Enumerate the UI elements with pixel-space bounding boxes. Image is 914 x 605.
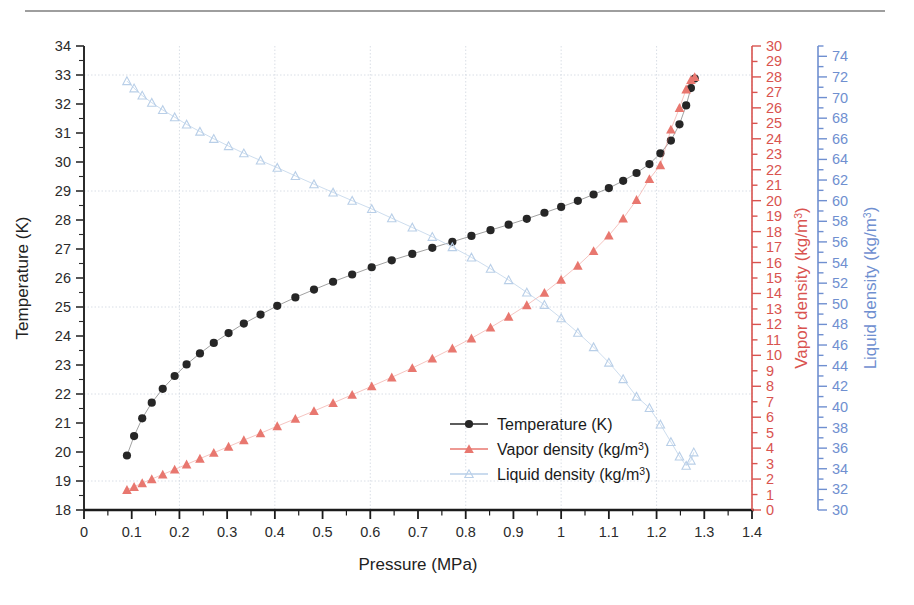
axis-liquid-tick-label: 58 (832, 213, 848, 229)
paren-close: ) (645, 466, 650, 483)
data-point (291, 414, 301, 423)
data-point (467, 334, 477, 343)
axis-liquid-tick-label: 60 (832, 193, 848, 209)
axis-left-tick-label: 31 (55, 125, 71, 141)
axis-left-tick-label: 23 (55, 357, 71, 373)
data-point (618, 214, 628, 223)
axis-vapor-tick-label: 18 (766, 224, 782, 240)
data-point (556, 275, 566, 284)
axis-vapor-tick-label: 9 (766, 363, 774, 379)
series-line (127, 78, 695, 455)
axis-vapor-tick-label: 11 (766, 332, 781, 348)
data-point (505, 221, 513, 229)
axis-vapor-tick-label: 4 (766, 440, 774, 456)
axis-vapor-tick-label: 17 (766, 239, 782, 255)
axis-vapor-tick-label: 23 (766, 146, 782, 162)
axis-liquid-tick-label: 64 (832, 151, 848, 167)
axis-liquid-tick-label: 48 (832, 316, 848, 332)
data-point (291, 293, 299, 301)
axis-vapor-tick-label: 3 (766, 456, 774, 472)
axis-vapor-tick-label: 7 (766, 394, 774, 410)
axis-left-tick-label: 30 (55, 154, 71, 170)
data-point (574, 197, 582, 205)
axis-vapor-tick-label: 30 (766, 38, 782, 54)
axis-liquid-tick-label: 66 (832, 131, 848, 147)
data-point (557, 203, 565, 211)
data-point (504, 312, 514, 321)
axis-bottom-tick-label: 1.3 (694, 524, 714, 540)
data-point (239, 435, 249, 444)
data-point (428, 354, 438, 363)
legend: Temperature (K)Vapor density (kg/m3)Liqu… (450, 416, 650, 483)
axis-vapor-tick-label: 2 (766, 471, 774, 487)
series-liquid-density (123, 77, 698, 469)
data-point (137, 478, 147, 487)
axis-liquid-ticks: 3032343638404244464850525456586062646668… (818, 46, 848, 518)
data-point (310, 286, 318, 294)
legend-marker-filled-circle (465, 420, 473, 428)
legend-item[interactable]: Vapor density (kg/m3) (450, 440, 649, 458)
legend-item[interactable]: Liquid density (kg/m3) (450, 465, 650, 483)
axis-liquid-title: Liquid density (kg/m3) (861, 207, 880, 370)
data-point (138, 414, 146, 422)
chart-canvas: 1819202122232425262728293031323334Temper… (0, 0, 914, 605)
data-point (632, 195, 642, 204)
axis-liquid-tick-label: 70 (832, 90, 848, 106)
axis-bottom-tick-label: 0.9 (503, 524, 523, 540)
axis-vapor-tick-label: 21 (766, 177, 782, 193)
data-point (129, 482, 139, 491)
axis-liquid-tick-label: 30 (832, 502, 848, 518)
data-point (309, 406, 319, 415)
figure-root: 1819202122232425262728293031323334Temper… (0, 0, 914, 605)
data-point (540, 209, 548, 217)
data-point (408, 250, 416, 258)
axis-vapor-tick-label: 26 (766, 100, 782, 116)
axis-bottom-tick-label: 0.8 (456, 524, 476, 540)
data-point (428, 244, 436, 252)
axis-bottom-ticks: 00.10.20.30.40.50.60.70.80.911.11.21.31.… (80, 510, 762, 540)
axis-vapor-tick-label: 19 (766, 208, 782, 224)
axis-vapor-tick-label: 20 (766, 193, 782, 209)
axis-bottom-tick-label: 0 (80, 524, 88, 540)
data-point (388, 256, 396, 264)
data-point (675, 120, 683, 128)
data-point (256, 310, 264, 318)
data-point (147, 474, 157, 483)
data-point (158, 470, 168, 479)
series-temperature (123, 74, 699, 459)
axis-left-tick-label: 32 (55, 96, 71, 112)
legend-label: Liquid density (kg/m3) (497, 465, 650, 483)
legend-label: Temperature (K) (497, 416, 613, 433)
axis-left-tick-label: 21 (55, 415, 71, 431)
legend-item[interactable]: Temperature (K) (450, 416, 613, 433)
data-point (273, 302, 281, 310)
axis-liquid-tick-label: 52 (832, 275, 848, 291)
axis-vapor-tick-label: 13 (766, 301, 782, 317)
axis-left-tick-label: 34 (55, 38, 71, 54)
axis-vapor-title: Vapor density (kg/m3) (792, 207, 811, 368)
data-point (130, 432, 138, 440)
data-point (224, 442, 234, 451)
data-point (682, 101, 690, 109)
data-point (182, 460, 192, 469)
axis-liquid-tick-label: 72 (832, 69, 848, 85)
data-point (619, 177, 627, 185)
axis-vapor-tick-label: 8 (766, 378, 774, 394)
data-point (486, 226, 494, 234)
axis-vapor-tick-label: 25 (766, 115, 782, 131)
axis-vapor-tick-label: 15 (766, 270, 782, 286)
axis-left-tick-label: 22 (55, 386, 71, 402)
data-point (209, 448, 219, 457)
axis-liquid-tick-label: 32 (832, 481, 848, 497)
gridlines (84, 46, 752, 510)
axis-left-tick-label: 25 (55, 299, 71, 315)
axis-liquid-tick-label: 56 (832, 234, 848, 250)
paren-close: ) (861, 207, 880, 213)
data-point (605, 184, 613, 192)
data-point (407, 363, 417, 372)
axis-vapor-tick-label: 14 (766, 285, 782, 301)
data-point (272, 421, 282, 430)
axis-bottom-tick-label: 0.4 (265, 524, 285, 540)
data-point (256, 428, 266, 437)
axis-liquid-tick-label: 38 (832, 420, 848, 436)
